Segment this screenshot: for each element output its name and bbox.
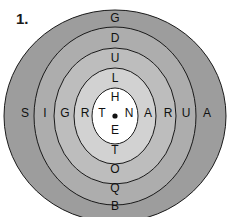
letter-bottom-2: T (111, 143, 119, 157)
letter-top-4: L (112, 71, 119, 85)
letter-top-2: D (111, 31, 120, 45)
letter-top-1: G (110, 11, 119, 25)
letter-right-3: R (164, 106, 173, 120)
letter-bottom-4: Q (110, 181, 119, 195)
concentric-letter-target: G D U L H E T O Q B S I G R T N A R U A (0, 0, 227, 217)
letter-right-2: A (144, 106, 152, 120)
letter-right-1: N (125, 106, 134, 120)
letter-right-4: U (182, 106, 191, 120)
letter-top-3: U (111, 51, 120, 65)
letter-left-1: S (21, 106, 29, 120)
letter-left-2: I (43, 106, 46, 120)
letter-bottom-3: O (110, 162, 119, 176)
letter-top-5: H (111, 90, 120, 104)
letter-left-5: T (98, 106, 106, 120)
letter-bottom-1: E (111, 123, 119, 137)
center-dot-icon (112, 113, 117, 118)
letter-left-4: R (81, 106, 90, 120)
letter-bottom-5: B (111, 199, 119, 213)
letter-left-3: G (60, 106, 69, 120)
letter-right-5: A (203, 106, 211, 120)
